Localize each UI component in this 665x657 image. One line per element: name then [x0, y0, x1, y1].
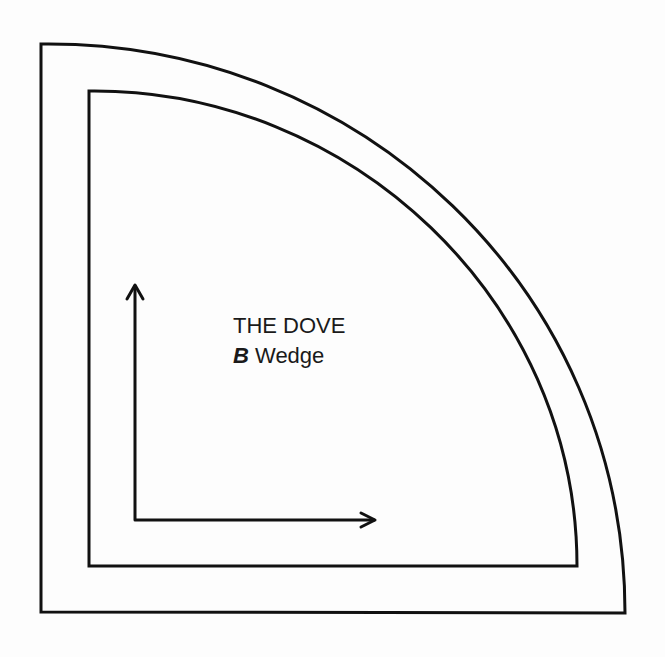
- piece-letter: B: [233, 343, 249, 368]
- pattern-title: THE DOVE: [233, 313, 345, 339]
- pattern-piece-label: B Wedge: [233, 343, 324, 369]
- piece-name: Wedge: [255, 343, 324, 368]
